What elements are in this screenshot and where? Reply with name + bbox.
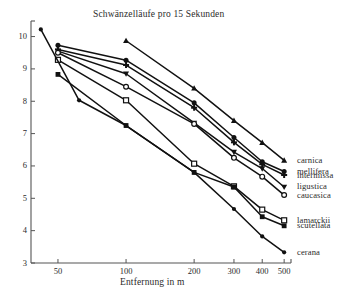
data-point-marker xyxy=(282,193,287,198)
data-point-marker xyxy=(77,98,81,102)
y-tick-label: 3 xyxy=(2,258,27,268)
series-carnica xyxy=(123,38,287,163)
x-axis-label: Entfernung in m xyxy=(120,277,185,287)
data-point-marker xyxy=(124,123,128,127)
data-point-marker xyxy=(192,100,197,105)
data-point-marker xyxy=(232,155,237,160)
series-line xyxy=(58,74,284,225)
data-point-marker xyxy=(56,72,61,77)
data-point-marker xyxy=(124,98,129,103)
chart-title: Schwänzelläufe pro 15 Sekunden xyxy=(93,9,224,19)
data-point-marker xyxy=(260,234,264,238)
y-tick-label: 10 xyxy=(2,31,27,41)
y-tick-label: 4 xyxy=(2,225,27,235)
data-point-marker xyxy=(260,174,265,179)
series-scutellata xyxy=(56,72,287,228)
data-point-marker xyxy=(231,135,236,140)
data-point-marker xyxy=(260,207,265,212)
data-point-marker xyxy=(39,27,43,31)
series-ligustica xyxy=(55,49,287,190)
legend-item-intermissa: intermissa xyxy=(297,170,333,180)
data-point-marker xyxy=(192,121,197,126)
data-point-marker xyxy=(232,207,236,211)
chart-container: Schwänzelläufe pro 15 Sekunden Entfernun… xyxy=(0,0,349,296)
series-line xyxy=(58,45,284,171)
legend-item-caucasica: caucasica xyxy=(297,190,331,200)
data-point-marker xyxy=(282,218,287,223)
data-point-marker xyxy=(281,172,287,178)
data-point-marker xyxy=(282,223,287,228)
data-point-marker xyxy=(123,38,129,43)
data-point-marker xyxy=(282,250,286,254)
data-point-marker xyxy=(232,185,237,190)
legend-item-scutellata: scutellata xyxy=(297,220,330,230)
x-tick-label: 300 xyxy=(219,266,249,276)
y-tick-label: 9 xyxy=(2,63,27,73)
y-tick-label: 6 xyxy=(2,160,27,170)
series-layer xyxy=(39,27,287,254)
y-tick-label: 5 xyxy=(2,193,27,203)
data-point-marker xyxy=(124,84,129,89)
data-point-marker xyxy=(56,50,61,55)
legend-item-carnica: carnica xyxy=(297,155,323,165)
x-tick-label: 50 xyxy=(43,266,73,276)
data-point-marker xyxy=(192,161,197,166)
y-tick-label: 8 xyxy=(2,96,27,106)
series-line xyxy=(58,60,284,220)
data-point-marker xyxy=(192,170,196,174)
legend-item-cerana: cerana xyxy=(297,247,320,257)
x-tick-label: 100 xyxy=(111,266,141,276)
y-tick-label: 7 xyxy=(2,128,27,138)
data-point-marker xyxy=(260,214,265,219)
x-tick-label: 500 xyxy=(269,266,299,276)
x-tick-label: 200 xyxy=(179,266,209,276)
series-intermissa xyxy=(55,46,287,178)
series-lamarckii xyxy=(55,57,286,222)
data-point-marker xyxy=(124,58,129,63)
series-line xyxy=(58,53,284,195)
data-point-marker xyxy=(281,185,287,190)
